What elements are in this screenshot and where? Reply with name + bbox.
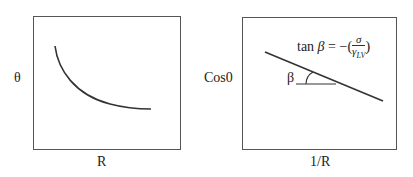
formula-tan: tan <box>297 39 318 54</box>
angle-arc <box>306 72 313 84</box>
formula-fraction: σγLV <box>352 34 365 61</box>
plot-lines <box>0 0 413 177</box>
slope-formula: tan β = −(σγLV) <box>297 34 370 61</box>
formula-equals: = −( <box>325 39 352 54</box>
formula-denominator: γLV <box>352 46 365 61</box>
beta-angle-label: β <box>287 70 294 86</box>
theta-vs-r-curve <box>55 46 151 109</box>
formula-close-paren: ) <box>365 39 370 54</box>
formula-beta: β <box>318 39 325 54</box>
